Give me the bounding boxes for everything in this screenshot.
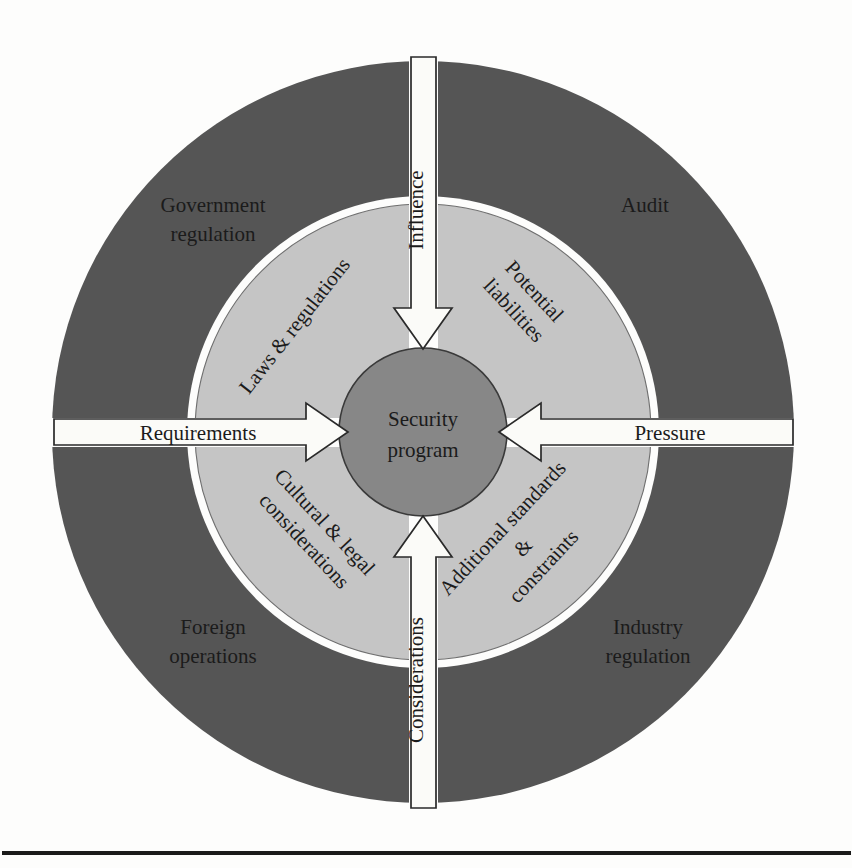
- outer-label-government-regulation-line1: Government: [161, 193, 266, 217]
- core-label-line2: program: [387, 438, 458, 462]
- security-program-diagram: Influence Requirements Pressure Consider…: [0, 0, 852, 868]
- arrow-label-considerations: Considerations: [404, 617, 428, 743]
- figure-root: Influence Requirements Pressure Consider…: [0, 0, 852, 868]
- outer-label-government-regulation-line2: regulation: [170, 222, 256, 246]
- outer-label-audit: Audit: [621, 193, 669, 217]
- bottom-rule: [2, 851, 851, 855]
- arrow-label-influence: Influence: [404, 170, 428, 249]
- outer-label-industry-regulation-line2: regulation: [605, 644, 691, 668]
- arrow-label-pressure: Pressure: [634, 421, 705, 445]
- outer-label-foreign-operations-line1: Foreign: [180, 615, 246, 639]
- arrow-label-requirements: Requirements: [140, 421, 257, 445]
- outer-label-industry-regulation-line1: Industry: [613, 615, 683, 639]
- outer-label-foreign-operations-line2: operations: [169, 644, 256, 668]
- core-label-line1: Security: [388, 407, 458, 431]
- core-circle: [339, 348, 507, 516]
